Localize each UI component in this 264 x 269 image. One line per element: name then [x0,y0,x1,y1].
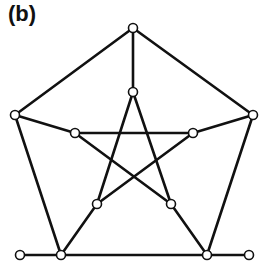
graph-node [189,129,198,138]
graph-edge [133,92,171,204]
graph-node [167,200,176,209]
graph-node [203,251,212,260]
graph-node [129,24,138,33]
graph-edge [97,133,193,204]
graph-edge [193,115,253,133]
graph-edge [133,28,253,115]
graph-edge [97,92,133,204]
graph-node [249,111,258,120]
graph-edge [171,204,207,255]
graph-edge [61,204,97,255]
graph-edge [15,28,133,115]
graph-edge [207,115,253,255]
graph-node [57,251,66,260]
graph-edge [15,115,61,255]
graph-node [245,251,254,260]
graph-node [93,200,102,209]
graph-edge [15,115,75,133]
graph-edges [15,28,253,255]
graph-node [129,88,138,97]
graph-node [71,129,80,138]
graph-edge [75,133,171,204]
graph-node [11,111,20,120]
graph-node [16,251,25,260]
petersen-graph-diagram [0,0,264,269]
